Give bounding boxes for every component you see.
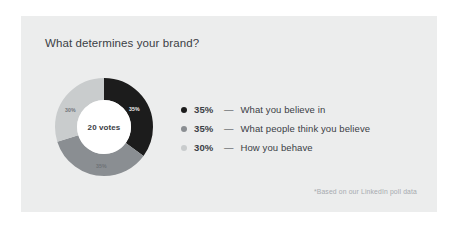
donut-svg	[52, 75, 156, 179]
legend-swatch-icon	[181, 126, 187, 132]
donut-hole	[77, 100, 131, 154]
legend-label: What you believe in	[241, 104, 326, 115]
legend-label: How you behave	[241, 142, 313, 153]
chart-footnote: *Based on our LinkedIn poll data	[314, 188, 417, 195]
legend-percent: 30%	[194, 142, 222, 153]
legend-item-how-you-behave: 30% — How you behave	[181, 138, 421, 157]
legend-dash: —	[224, 123, 234, 134]
legend-label: What people think you believe	[241, 123, 371, 134]
legend-dash: —	[224, 142, 234, 153]
page-title: What determines your brand?	[45, 37, 199, 49]
chart-legend: 35% — What you believe in 35% — What peo…	[181, 100, 421, 157]
legend-swatch-icon	[181, 145, 187, 151]
legend-percent: 35%	[194, 104, 222, 115]
legend-item-believe-in: 35% — What you believe in	[181, 100, 421, 119]
legend-item-people-think: 35% — What people think you believe	[181, 119, 421, 138]
legend-dash: —	[224, 104, 234, 115]
legend-swatch-icon	[181, 107, 187, 113]
legend-percent: 35%	[194, 123, 222, 134]
poll-card: What determines your brand? 20 votes 35%…	[21, 16, 437, 212]
donut-chart: 20 votes 35% 35% 30%	[52, 75, 156, 179]
